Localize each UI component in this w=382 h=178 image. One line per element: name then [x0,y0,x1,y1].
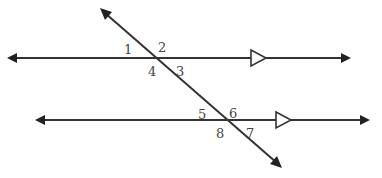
arrowhead-right-icon [341,53,351,63]
angle-label-7: 7 [246,126,254,141]
angle-label-3: 3 [176,64,184,79]
angle-label-4: 4 [148,64,156,79]
arrowhead-right-icon [360,115,370,125]
angle-label-5: 5 [198,107,206,122]
parallel-lines-diagram: 1 2 4 3 5 6 8 7 [0,0,382,178]
parallel-marker-icon [276,112,291,128]
angle-label-6: 6 [229,106,237,121]
arrowhead-left-icon [7,53,17,63]
diagram-svg: 1 2 4 3 5 6 8 7 [0,0,382,178]
angle-label-1: 1 [124,42,132,57]
arrowhead-left-icon [35,115,45,125]
transversal-line [100,8,282,168]
parallel-marker-icon [251,50,266,66]
angle-label-2: 2 [158,40,166,55]
angle-label-8: 8 [216,126,224,141]
